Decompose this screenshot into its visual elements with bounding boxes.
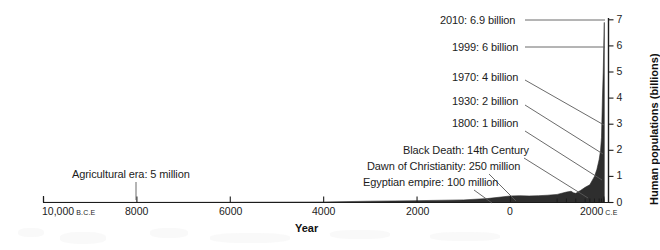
annotation-dawn-of-christianity: Dawn of Christianity: 250 million	[367, 160, 520, 172]
leader-line-pop-1800	[525, 131, 602, 180]
y-axis-title: Human populations (billions)	[648, 53, 660, 205]
x-axis-tick-label-value: 4000	[312, 205, 335, 217]
x-axis-tick-label-era: C.E	[603, 209, 617, 216]
x-axis-tick-label: 2000	[406, 205, 429, 217]
x-axis-tick-label-value: 2000	[406, 205, 429, 217]
y-axis-tick-label: 7	[617, 13, 623, 25]
annotation-agricultural-era: Agricultural era: 5 million	[72, 168, 190, 180]
annotation-egyptian-empire: Egyptian empire: 100 million	[363, 176, 498, 188]
leader-line-black-death	[524, 158, 588, 198]
x-axis-tick-label: 4000	[312, 205, 335, 217]
annotation-pop-2010: 2010: 6.9 billion	[440, 14, 515, 26]
annotation-pop-1999: 1999: 6 billion	[452, 41, 518, 53]
y-axis-tick-label: 1	[617, 169, 623, 181]
y-axis-tick-label: 0	[617, 196, 623, 208]
x-axis-tick-label-value: 2000	[580, 205, 603, 217]
x-axis-tick-label-value: 10,000	[42, 205, 74, 217]
x-axis-title: Year	[295, 222, 318, 234]
leader-line-pop-1930	[525, 105, 603, 154]
x-axis-tick-label: 6000	[219, 205, 242, 217]
annotation-pop-1970: 1970: 4 billion	[452, 71, 518, 83]
y-axis-tick-label: 2	[617, 143, 623, 155]
x-axis-tick-label-era: B.C.E	[74, 209, 95, 216]
annotation-pop-1800: 1800: 1 billion	[452, 117, 518, 129]
y-axis-tick-label: 4	[617, 91, 623, 103]
y-axis-tick-label: 6	[617, 39, 623, 51]
y-axis-ticks	[609, 20, 614, 203]
x-axis-tick-label-value: 0	[507, 205, 513, 217]
x-axis-tick-label: 10,000B.C.E	[42, 205, 95, 217]
annotation-pop-1930: 1930: 2 billion	[452, 95, 518, 107]
x-axis-tick-label: 2000C.E	[580, 205, 618, 217]
leader-line-pop-1970	[525, 80, 604, 125]
x-axis-tick-label-value: 8000	[125, 205, 148, 217]
y-axis-tick-label: 3	[617, 117, 623, 129]
x-axis-tick-label-value: 6000	[219, 205, 242, 217]
x-axis-tick-label: 8000	[125, 205, 148, 217]
x-axis-tick-label: 0	[507, 205, 513, 217]
y-axis-tick-label: 5	[617, 65, 623, 77]
annotation-black-death: Black Death: 14th Century	[403, 144, 529, 156]
